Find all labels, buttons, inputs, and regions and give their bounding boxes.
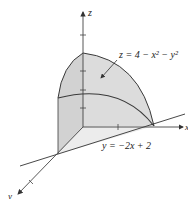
plane-equation-label: y = −2x + 2 (101, 140, 151, 151)
x-axis-label: x (184, 122, 188, 132)
diagram-canvas: z x y z = 4 − x² − y² y = −2x + 2 (0, 0, 188, 199)
surface-region (83, 53, 154, 127)
y-axis-label: y (7, 191, 12, 199)
y-axis (18, 127, 83, 194)
z-axis-label: z (87, 7, 92, 18)
surface-equation-label: z = 4 − x² − y² (118, 49, 179, 60)
